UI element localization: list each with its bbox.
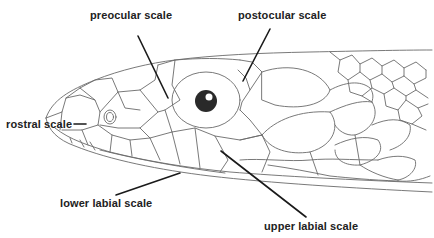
label-rostral-scale: rostral scale bbox=[6, 118, 72, 130]
eye-highlight bbox=[206, 94, 213, 101]
label-postocular-scale: postocular scale bbox=[238, 9, 326, 21]
snake-head-diagram: preocular scale postocular scale rostral… bbox=[0, 0, 434, 238]
dorsal-scales bbox=[330, 52, 428, 130]
label-preocular-scale: preocular scale bbox=[90, 9, 172, 21]
label-upper-labial-scale: upper labial scale bbox=[264, 220, 358, 232]
postocular-leader-line bbox=[243, 29, 270, 81]
lower-labial-leader-line bbox=[116, 173, 180, 195]
label-lower-labial-scale: lower labial scale bbox=[60, 197, 152, 209]
eye bbox=[195, 90, 217, 112]
